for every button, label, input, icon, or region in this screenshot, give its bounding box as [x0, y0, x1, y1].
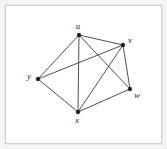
graph-edge-u-x	[78, 35, 79, 112]
graph-vertex-w	[128, 87, 132, 91]
graph-vertex-layer	[36, 33, 132, 114]
graph-edge-u-y	[38, 35, 79, 79]
graph-vertex-v	[121, 43, 125, 47]
graph-edge-u-v	[79, 35, 123, 45]
graph-edge-layer	[38, 35, 130, 112]
graph-edge-y-x	[38, 79, 78, 112]
figure-frame: uvywx	[0, 0, 167, 149]
graph-edge-v-y	[38, 45, 123, 79]
graph-vertex-label-v: v	[128, 35, 132, 45]
graph-vertex-label-w: w	[134, 90, 140, 100]
graph-vertex-x	[76, 110, 80, 114]
graph-vertex-label-y: y	[26, 71, 31, 81]
graph-vertex-label-u: u	[76, 21, 81, 31]
graph-vertex-label-x: x	[74, 115, 79, 125]
graph-vertex-y	[36, 77, 40, 81]
graph-vertex-u	[77, 33, 81, 37]
graph-diagram: uvywx	[0, 0, 167, 149]
